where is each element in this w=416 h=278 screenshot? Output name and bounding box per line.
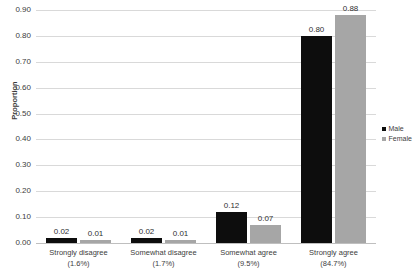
category-label-name: Strongly disagree xyxy=(49,248,107,257)
legend-label: Male xyxy=(389,125,404,133)
plot-area xyxy=(36,10,376,243)
y-axis-title: Proportion xyxy=(10,61,19,141)
bar-value-label: 0.80 xyxy=(295,25,338,34)
y-axis-tick-label: 0.90 xyxy=(0,6,31,14)
bar-female-2 xyxy=(250,225,281,243)
category-label-percent: (1.7%) xyxy=(121,258,206,269)
x-axis-line xyxy=(36,243,376,244)
category-label-percent: (1.6%) xyxy=(36,258,121,269)
bar-value-label: 0.07 xyxy=(244,214,287,223)
bar-male-3 xyxy=(301,36,332,243)
category-label: Somewhat agree(9.5%) xyxy=(206,247,291,269)
category-label: Strongly disagree(1.6%) xyxy=(36,247,121,269)
y-axis-tick-label: 0.20 xyxy=(0,187,31,195)
bar-value-label: 0.01 xyxy=(159,229,202,238)
bar-value-label: 0.01 xyxy=(74,229,117,238)
bar-female-3 xyxy=(335,15,366,243)
category-label-name: Somewhat agree xyxy=(220,248,277,257)
bar-male-2 xyxy=(216,212,247,243)
y-axis-tick-label: 0.40 xyxy=(0,135,31,143)
bar-chart: Proportion 0.900.800.700.600.500.400.300… xyxy=(0,0,416,278)
y-axis-tick-label: 0.80 xyxy=(0,32,31,40)
category-label: Somewhat disagree(1.7%) xyxy=(121,247,206,269)
category-label-name: Strongly agree xyxy=(309,248,358,257)
legend-label: Female xyxy=(389,135,412,143)
bar-value-label: 0.88 xyxy=(329,4,372,13)
legend: MaleFemale xyxy=(382,124,412,144)
category-label-percent: (9.5%) xyxy=(206,258,291,269)
legend-swatch-icon xyxy=(382,127,386,131)
y-axis-tick-label: 0.60 xyxy=(0,84,31,92)
legend-item-male[interactable]: Male xyxy=(382,124,412,134)
y-axis-tick-label: 0.70 xyxy=(0,58,31,66)
category-label-percent: (84.7%) xyxy=(291,258,376,269)
bar-value-label: 0.12 xyxy=(210,201,253,210)
category-label: Strongly agree(84.7%) xyxy=(291,247,376,269)
gridline xyxy=(36,10,376,11)
legend-item-female[interactable]: Female xyxy=(382,134,412,144)
y-axis-tick-label: 0.50 xyxy=(0,110,31,118)
y-axis-tick-label: 0.10 xyxy=(0,213,31,221)
y-axis-tick-label: 0.30 xyxy=(0,161,31,169)
y-axis-tick-label: 0.00 xyxy=(0,239,31,247)
category-label-name: Somewhat disagree xyxy=(130,248,196,257)
legend-swatch-icon xyxy=(382,137,386,141)
